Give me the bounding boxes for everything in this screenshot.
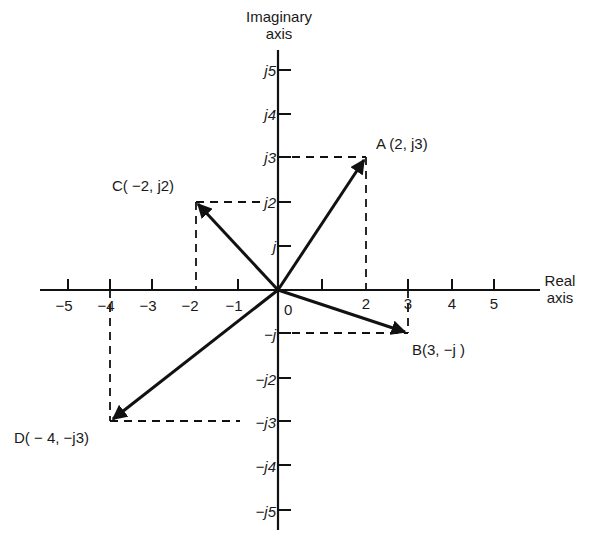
real-axis-title-line1: Real	[540, 272, 580, 289]
imaginary-axis-title-line2: axis	[243, 25, 315, 42]
imaginary-axis-title-line1: Imaginary	[243, 8, 315, 25]
imag-tick-label: j2	[264, 195, 276, 210]
real-tick-label: −5	[55, 298, 72, 313]
real-tick-label: 2	[362, 296, 370, 311]
origin-label: 0	[284, 302, 292, 317]
argand-diagram-canvas	[0, 0, 593, 544]
real-tick-label: 5	[490, 296, 498, 311]
imag-tick-label: −j	[264, 327, 276, 342]
point-label-D: D( − 4, −j3)	[14, 430, 89, 445]
point-label-C: C( −2, j2)	[112, 178, 174, 193]
real-tick-label: −1	[225, 298, 242, 313]
imag-tick-label: −j2	[256, 372, 276, 387]
real-tick-label: −2	[181, 298, 198, 313]
imag-tick-label: j	[273, 239, 276, 254]
phasor-A	[278, 160, 364, 290]
point-label-B: B(3, −j )	[412, 342, 465, 357]
imag-tick-label: −j3	[256, 415, 276, 430]
real-tick-label: −4	[97, 298, 114, 313]
real-tick-label: 4	[448, 296, 456, 311]
point-label-A: A (2, j3)	[376, 136, 428, 151]
phasor-B	[278, 290, 405, 332]
imaginary-axis-title: Imaginary axis	[243, 8, 315, 42]
real-tick-label: −3	[139, 298, 156, 313]
imag-tick-label: −j4	[256, 459, 276, 474]
real-axis-title: Real axis	[540, 272, 580, 306]
real-tick-label: 3	[404, 296, 412, 311]
imag-tick-label: j3	[264, 150, 276, 165]
imag-tick-label: −j5	[256, 504, 276, 519]
real-axis-title-line2: axis	[540, 289, 580, 306]
phasor-C	[198, 204, 278, 290]
imag-tick-label: j5	[264, 63, 276, 78]
imag-tick-label: j4	[264, 107, 276, 122]
